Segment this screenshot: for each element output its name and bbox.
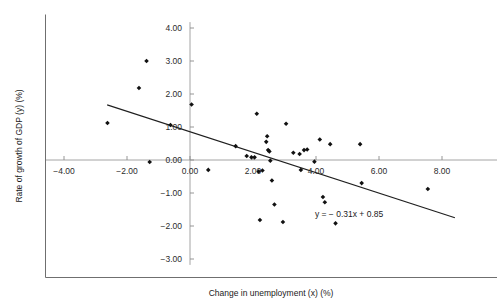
y-tick-label: 0.00 (165, 155, 182, 165)
data-point (426, 187, 431, 192)
scatter-plot-figure: −4.00−2.000.002.004.006.008.00 −3.00−2.0… (0, 0, 502, 307)
data-point (206, 168, 211, 173)
y-tick-label: −2.00 (160, 221, 182, 231)
data-point (297, 152, 302, 157)
x-axis-title: Change in unemployment (x) (%) (209, 288, 334, 298)
equation-annotation: y = − 0.31x + 0.85 (315, 209, 384, 219)
x-tick-label: 6.00 (371, 166, 388, 176)
data-point (284, 121, 289, 126)
data-point (323, 200, 328, 205)
y-tick-label: 2.00 (165, 89, 182, 99)
data-point (137, 86, 142, 91)
data-point (328, 142, 333, 147)
data-point (268, 158, 273, 163)
data-point (321, 195, 326, 200)
y-tick-label: −1.00 (160, 188, 182, 198)
data-point (258, 218, 263, 223)
data-point (281, 220, 286, 225)
data-point (333, 221, 338, 226)
y-tick-label: −3.00 (160, 254, 182, 264)
data-point (265, 134, 270, 139)
data-point (254, 112, 259, 117)
chart-canvas: −4.00−2.000.002.004.006.008.00 −3.00−2.0… (0, 0, 502, 307)
x-tick-label: −2.00 (116, 166, 138, 176)
data-point (359, 181, 364, 186)
data-point (244, 154, 249, 159)
data-point (291, 150, 296, 155)
data-point (233, 144, 238, 149)
data-point (264, 140, 269, 145)
regression-trendline (107, 105, 455, 218)
y-tick-label: 4.00 (165, 23, 182, 33)
y-axis-title: Rate of growth of GDP (y) (%) (14, 89, 24, 202)
data-point (317, 137, 322, 142)
equation-label: y = − 0.31x + 0.85 (315, 209, 384, 219)
plot-frame (46, 15, 498, 278)
x-tick-label: 0.00 (182, 166, 199, 176)
data-points-layer (105, 59, 430, 226)
data-point (305, 147, 310, 152)
x-tick-labels: −4.00−2.000.002.004.006.008.00 (53, 166, 450, 176)
data-point (358, 142, 363, 147)
data-point (105, 121, 110, 126)
data-point (270, 178, 275, 183)
x-tick-label: −4.00 (53, 166, 75, 176)
axes-layer (46, 22, 497, 265)
data-point (272, 202, 277, 207)
tick-marks-layer (64, 28, 442, 259)
data-point (144, 59, 149, 64)
trendline-segment (107, 105, 455, 218)
y-tick-labels: −3.00−2.00−1.000.001.002.003.004.00 (160, 23, 182, 264)
x-tick-label: 8.00 (434, 166, 451, 176)
y-tick-label: 3.00 (165, 56, 182, 66)
